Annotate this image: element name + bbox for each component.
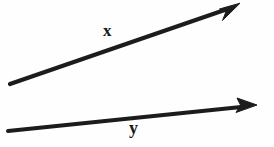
vector-y-label: y — [129, 119, 138, 137]
vector-x-label: x — [103, 22, 112, 39]
figure-canvas: x y — [0, 0, 274, 147]
